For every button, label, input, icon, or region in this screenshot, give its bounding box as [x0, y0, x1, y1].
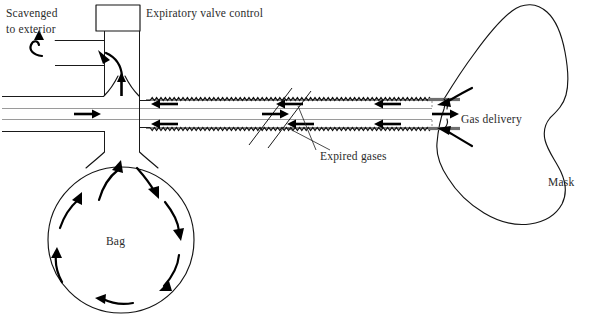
bag-arrow-bottom	[95, 294, 133, 304]
bag-inflow-arrow	[99, 160, 123, 200]
diagram-root: Scavenged to exterior Expiratory valve c…	[0, 0, 594, 335]
expiratory-valve-box	[96, 5, 140, 131]
label-bag: Bag	[106, 235, 125, 248]
label-scavenged-line1: Scavenged	[6, 7, 58, 20]
bag-arrow-right-upper	[165, 202, 184, 241]
bag-arrow-left-upper	[60, 192, 82, 228]
label-scavenged-line2: to exterior	[6, 23, 56, 35]
label-gas-delivery: Gas delivery	[461, 113, 522, 126]
gas-delivery-arrow	[432, 110, 459, 119]
coaxial-tube	[2, 97, 432, 132]
mask-inflow-curve-upper	[437, 88, 472, 107]
bag-arrow-right-lower	[159, 255, 179, 291]
bag-circulation-arrows	[51, 192, 184, 304]
expired-gas-upper-return	[151, 100, 178, 109]
fresh-gas-flow-mid	[262, 110, 289, 119]
expired-gas-lower-return	[151, 120, 178, 129]
scavenging-pipe	[55, 41, 105, 66]
reservoir-bag	[48, 131, 194, 313]
label-expiratory-valve-control: Expiratory valve control	[146, 7, 263, 20]
valve-curved-arrow	[98, 50, 122, 76]
fresh-gas-flow-left	[74, 110, 101, 119]
label-expired-gases: Expired gases	[320, 150, 387, 163]
circuit-diagram: Scavenged to exterior Expiratory valve c…	[0, 0, 594, 335]
label-mask: Mask	[548, 176, 574, 188]
